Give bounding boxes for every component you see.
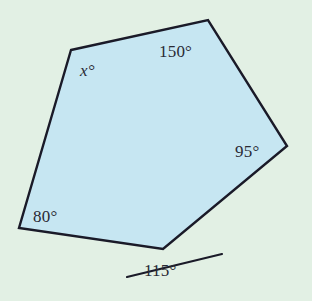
angle-label-95: 95°: [235, 143, 259, 160]
pentagon-shape: [19, 20, 287, 249]
angle-label-115: 115°: [144, 262, 176, 279]
angle-label-x: x°: [80, 62, 95, 79]
polygon-angle-diagram: 150° x° 95° 80° 115°: [0, 0, 312, 301]
angle-label-150: 150°: [159, 43, 192, 60]
angle-label-80: 80°: [33, 208, 57, 225]
figure-canvas: [0, 0, 312, 301]
